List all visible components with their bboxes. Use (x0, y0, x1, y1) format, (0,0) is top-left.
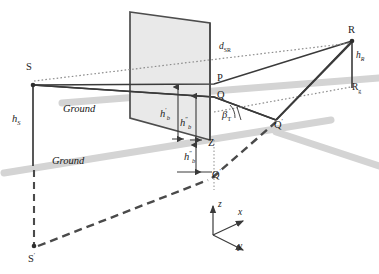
label-distance-sr: dSR (219, 42, 231, 54)
label-beta-sub: T (227, 115, 231, 122)
building-facade (130, 12, 210, 140)
label-hb-dprime-lower: h″b (184, 150, 195, 164)
label-source-S: S (26, 62, 32, 73)
label-Qprime-mark: ′ (282, 117, 283, 124)
label-axis-z: z (218, 200, 222, 210)
label-beta-angle: βT (222, 110, 231, 123)
label-ground-lower: Ground (52, 156, 84, 167)
label-point-Q-prime: Q′ (274, 118, 283, 130)
node-R (350, 39, 355, 44)
label-hbprime-sub: b (167, 114, 170, 121)
source-height-line (33, 85, 34, 246)
label-axis-y: y (238, 242, 242, 252)
label-point-Q-lower: Q′ (212, 168, 221, 180)
label-hb-prime: h′b (160, 107, 170, 121)
label-receiver-R: R (348, 25, 355, 36)
label-hbdprime-mark: ″ (185, 115, 188, 122)
label-Qlower-mark: ′ (220, 167, 221, 174)
label-Qprime-base: Q (274, 119, 282, 130)
label-hbprime-mark: ′ (165, 106, 166, 113)
reflected-ray-dashed (38, 122, 276, 246)
label-hR-sub: R (361, 56, 365, 62)
label-hb-dprime: h″b (180, 116, 191, 130)
label-hS-sub: S (17, 119, 20, 126)
node-S-prime (32, 244, 37, 249)
node-S (31, 83, 36, 88)
label-point-Q: Q (217, 90, 225, 101)
label-hbdprime-lower-sub: b (192, 157, 195, 164)
diagram-root: S hS S′ R hR Rg dSR P Q Q′ Z Q′ h′b h″b … (0, 0, 379, 274)
label-Qlower-base: Q (212, 169, 220, 180)
label-axis-x: x (238, 208, 242, 218)
label-receiver-ground: Rg (352, 83, 361, 95)
label-point-Z: Z (208, 138, 214, 149)
label-point-P: P (217, 73, 223, 84)
label-Sprime-mark: ′ (34, 251, 35, 258)
label-Rg-sub: g (358, 88, 361, 94)
label-dSR-sub: SR (224, 47, 231, 53)
diagram-canvas (0, 0, 379, 274)
label-hbdprime-sub: b (188, 123, 191, 130)
label-ground-upper: Ground (63, 104, 95, 115)
label-hbdprime-lower-mark: ″ (189, 149, 192, 156)
label-receiver-height: hR (356, 51, 364, 63)
label-source-image: S′ (28, 252, 35, 264)
label-source-height: hS (12, 114, 21, 127)
